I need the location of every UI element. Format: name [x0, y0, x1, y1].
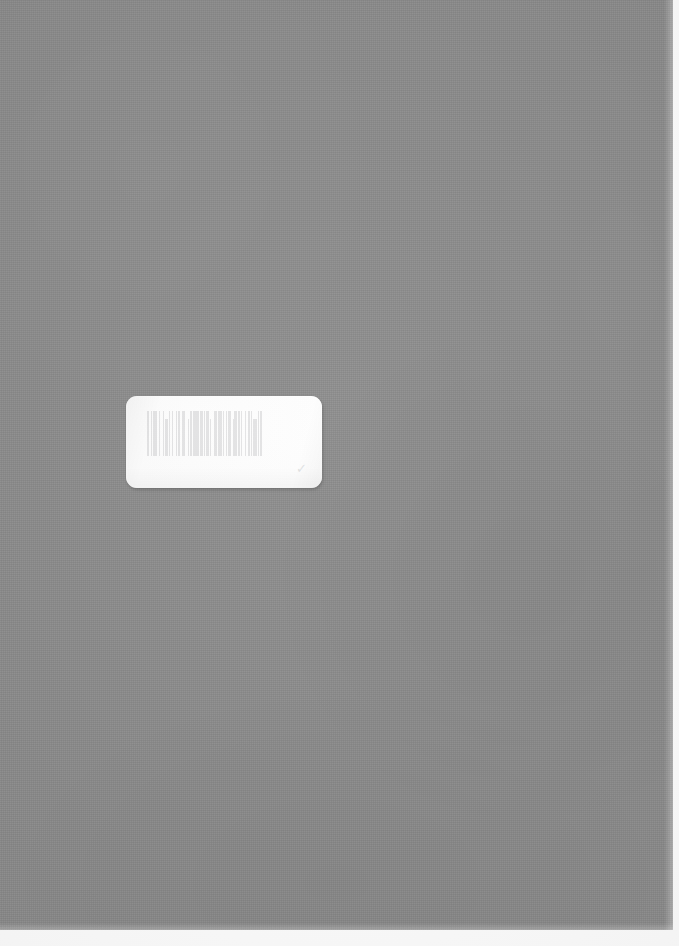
scanned-page: ✓ [0, 0, 679, 946]
label-corner-mark: ✓ [296, 462, 307, 475]
cover-bottom-edge-highlight [0, 923, 673, 930]
cover-grain-texture [0, 0, 673, 930]
barcode-bar [262, 411, 264, 456]
cover-right-edge-highlight [664, 0, 673, 930]
barcode-icon [147, 411, 306, 456]
book-cover: ✓ [0, 0, 673, 930]
cover-mottling [0, 0, 673, 930]
barcode-label: ✓ [126, 396, 322, 488]
